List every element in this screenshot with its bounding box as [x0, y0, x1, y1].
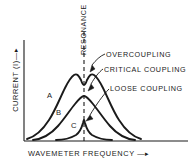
resonance-curve-figure: OVERCOUPLING CRITICAL COUPLING LOOSE COU…: [0, 0, 196, 163]
curve-label-b: B: [56, 109, 62, 117]
curve-label-c: C: [71, 122, 77, 130]
plot-canvas: [0, 0, 196, 163]
leader-overcoupling: [92, 54, 105, 65]
annotation-critical-coupling: CRITICAL COUPLING: [104, 66, 186, 73]
annotation-overcoupling: OVERCOUPLING: [106, 51, 171, 58]
arrowhead-critical-coupling: [88, 84, 94, 91]
x-axis-title: WAVEMETER FREQUENCY —▸: [28, 150, 150, 157]
curve-label-a: A: [47, 92, 53, 100]
resonance-marker-label: RESONANCE: [80, 2, 87, 58]
arrowhead-overcoupling: [90, 65, 95, 72]
arrowhead-loose-coupling: [86, 115, 93, 121]
y-axis-title: CURRENT (I)—▸: [12, 42, 19, 118]
annotation-loose-coupling: LOOSE COUPLING: [110, 85, 183, 92]
